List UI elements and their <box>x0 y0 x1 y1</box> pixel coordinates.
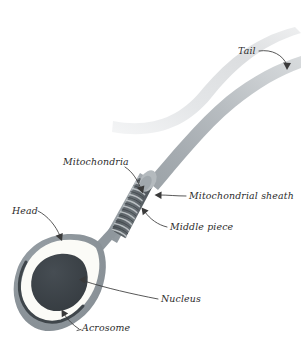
label-mitochondria: Mitochondria <box>62 156 129 167</box>
leader-head-part <box>38 211 63 241</box>
diagram-canvas: Tail Mitochondria Mitochondrial sheath M… <box>0 0 301 338</box>
leader-middle-piece <box>142 208 168 228</box>
label-middle-piece: Middle piece <box>169 221 234 232</box>
label-tail: Tail <box>238 45 256 56</box>
label-nucleus: Nucleus <box>160 293 201 304</box>
label-mitochondrial-sheath: Mitochondrial sheath <box>188 190 294 201</box>
leader-mitochondrial-sheath <box>155 192 187 199</box>
label-acrosome: Acrosome <box>81 322 131 333</box>
label-head: Head <box>11 205 38 216</box>
sperm-cell-diagram: Tail Mitochondria Mitochondrial sheath M… <box>0 0 301 338</box>
